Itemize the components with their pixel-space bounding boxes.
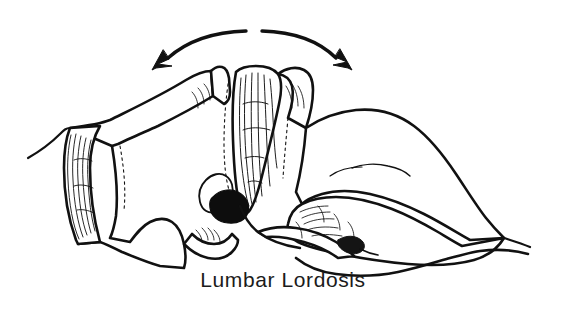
figure-caption: Lumbar Lordosis — [200, 268, 365, 291]
nucleus-pulposus — [210, 190, 249, 223]
caption-layer: Lumbar Lordosis — [0, 268, 566, 291]
figure-root: Lumbar Lordosis — [0, 0, 566, 325]
